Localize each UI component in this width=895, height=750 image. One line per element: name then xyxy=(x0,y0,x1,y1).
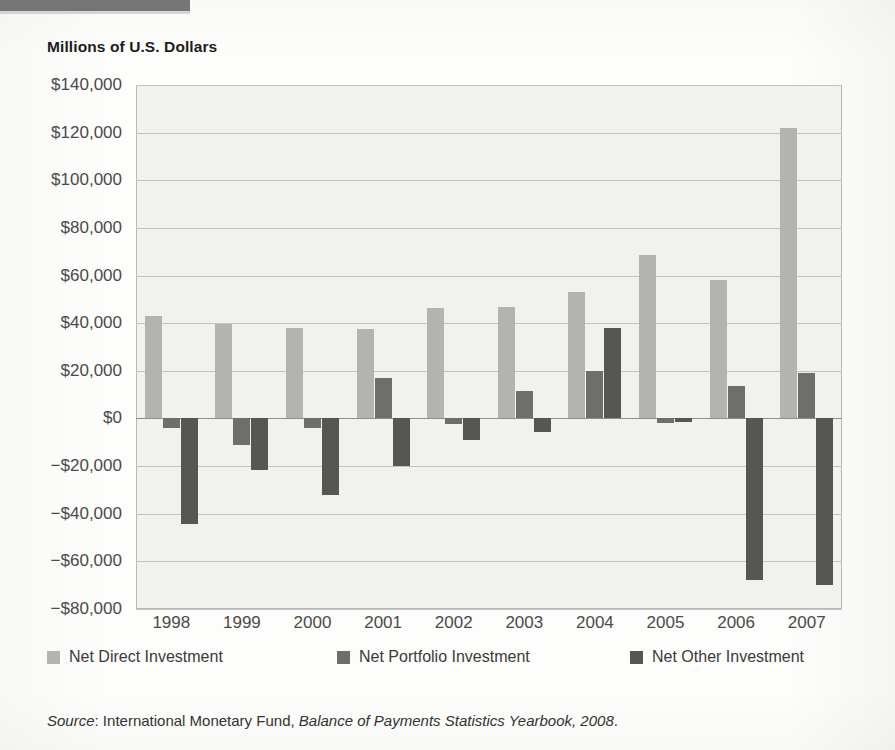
bar-portfolio-2005 xyxy=(657,418,674,423)
legend-swatch-icon-direct xyxy=(47,651,60,664)
bar-other-2001 xyxy=(393,418,410,466)
source-end: . xyxy=(614,712,618,729)
gridline xyxy=(136,85,842,86)
y-axis-tick-label: $80,000 xyxy=(0,218,122,238)
bar-direct-2003 xyxy=(498,307,515,419)
x-axis-tick-label-2000: 2000 xyxy=(294,613,332,633)
y-axis-tick-label: −$80,000 xyxy=(0,599,122,619)
gridline xyxy=(136,371,842,372)
legend-label-other: Net Other Investment xyxy=(652,648,804,666)
x-axis-tick-label-2006: 2006 xyxy=(717,613,755,633)
bar-direct-2001 xyxy=(357,329,374,418)
bar-portfolio-2006 xyxy=(728,386,745,418)
chart-legend: Net Direct Investment Net Portfolio Inve… xyxy=(47,648,847,672)
bar-portfolio-2003 xyxy=(516,391,533,418)
bar-other-1999 xyxy=(251,418,268,469)
legend-item-net-portfolio-investment: Net Portfolio Investment xyxy=(337,648,530,666)
x-axis-tick-label-1998: 1998 xyxy=(152,613,190,633)
source-note: Source: International Monetary Fund, Bal… xyxy=(47,712,618,729)
legend-item-net-direct-investment: Net Direct Investment xyxy=(47,648,223,666)
bar-direct-2005 xyxy=(639,255,656,418)
y-axis-tick-label: $140,000 xyxy=(0,75,122,95)
gridline xyxy=(136,561,842,562)
bar-direct-2007 xyxy=(780,128,797,419)
source-prefix: Source xyxy=(47,712,95,729)
x-axis-tick-label-2004: 2004 xyxy=(576,613,614,633)
y-axis-tick-label: −$40,000 xyxy=(0,504,122,524)
bar-direct-2002 xyxy=(427,308,444,419)
legend-swatch-icon-other xyxy=(630,651,643,664)
y-axis-tick-label: $120,000 xyxy=(0,123,122,143)
bar-other-2005 xyxy=(675,418,692,422)
bar-other-2000 xyxy=(322,418,339,494)
y-axis-tick-label: −$20,000 xyxy=(0,456,122,476)
x-axis-tick-label-2005: 2005 xyxy=(647,613,685,633)
bar-portfolio-2001 xyxy=(375,378,392,418)
gridline xyxy=(136,133,842,134)
y-axis-tick-label: $100,000 xyxy=(0,170,122,190)
bar-direct-2000 xyxy=(286,328,303,419)
bar-other-2004 xyxy=(604,328,621,419)
source-body: : International Monetary Fund, xyxy=(95,712,299,729)
page-header-rule xyxy=(0,0,190,11)
chart-plot-area: $140,000$120,000$100,000$80,000$60,000$4… xyxy=(136,85,842,609)
bar-other-2002 xyxy=(463,418,480,439)
bar-portfolio-2000 xyxy=(304,418,321,428)
legend-item-net-other-investment: Net Other Investment xyxy=(630,648,804,666)
y-axis-tick-label: $60,000 xyxy=(0,266,122,286)
bar-other-2006 xyxy=(746,418,763,580)
page-title: Millions of U.S. Dollars xyxy=(47,38,217,56)
y-axis-tick-label: $20,000 xyxy=(0,361,122,381)
bar-portfolio-2002 xyxy=(445,418,462,424)
bar-portfolio-1998 xyxy=(163,418,180,428)
bar-other-2007 xyxy=(816,418,833,585)
bar-portfolio-1999 xyxy=(233,418,250,444)
y-axis-tick-label: $40,000 xyxy=(0,313,122,333)
x-axis-tick-label-1999: 1999 xyxy=(223,613,261,633)
source-publication-title: Balance of Payments Statistics Yearbook,… xyxy=(299,712,614,729)
bar-direct-1999 xyxy=(215,324,232,418)
bar-direct-2006 xyxy=(710,280,727,418)
y-axis-tick-label: $0 xyxy=(0,408,122,428)
gridline xyxy=(136,276,842,277)
gridline xyxy=(136,323,842,324)
bar-portfolio-2007 xyxy=(798,373,815,418)
gridline xyxy=(136,228,842,229)
bar-direct-2004 xyxy=(568,292,585,418)
gridline xyxy=(136,514,842,515)
plot-background xyxy=(136,85,842,609)
bar-other-1998 xyxy=(181,418,198,524)
x-axis-tick-label-2003: 2003 xyxy=(505,613,543,633)
bar-direct-1998 xyxy=(145,316,162,418)
x-axis-tick-label-2007: 2007 xyxy=(788,613,826,633)
legend-label-direct: Net Direct Investment xyxy=(69,648,223,666)
gridline xyxy=(136,609,842,610)
gridline xyxy=(136,180,842,181)
y-axis-tick-label: −$60,000 xyxy=(0,551,122,571)
bar-portfolio-2004 xyxy=(586,371,603,419)
x-axis-tick-label-2002: 2002 xyxy=(435,613,473,633)
legend-swatch-icon-portfolio xyxy=(337,651,350,664)
bar-other-2003 xyxy=(534,418,551,431)
gridline xyxy=(136,466,842,467)
x-axis-tick-label-2001: 2001 xyxy=(364,613,402,633)
legend-label-portfolio: Net Portfolio Investment xyxy=(359,648,530,666)
